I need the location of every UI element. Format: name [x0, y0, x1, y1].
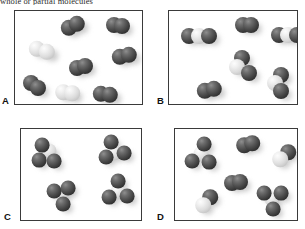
atom-dark [30, 80, 46, 96]
atom-dark [77, 58, 93, 74]
atom-dark [117, 146, 132, 161]
panel-d [174, 128, 298, 221]
atom-dark [120, 189, 135, 204]
atom-dark [202, 155, 217, 170]
panel-c [20, 128, 142, 221]
atom-dark [244, 135, 260, 151]
atom-dark [241, 65, 257, 81]
atom-light [272, 151, 288, 167]
atom-dark [197, 137, 212, 152]
panel-d-content [175, 129, 297, 220]
atom-dark [273, 83, 289, 99]
atom-dark [243, 17, 259, 33]
atom-dark [257, 186, 272, 201]
atom-dark [111, 174, 126, 189]
atom-light [195, 197, 211, 213]
atom-dark [56, 197, 71, 212]
atom-dark [232, 174, 248, 190]
panel-c-content [21, 129, 141, 220]
figure-caption-partial: whole or partial molecules [0, 0, 305, 5]
figure-root: whole or partial molecules ABCD [0, 0, 305, 229]
panel-b-content [169, 11, 297, 104]
atom-dark [114, 18, 130, 34]
atom-dark [201, 28, 217, 44]
atom-dark [266, 202, 281, 217]
atom-light [64, 85, 80, 101]
atom-dark [61, 181, 76, 196]
atom-dark [185, 154, 200, 169]
panel-label-d: D [157, 212, 164, 222]
atom-dark [32, 153, 47, 168]
panel-b [168, 10, 298, 105]
atom-dark [47, 154, 62, 169]
panel-a-content [15, 11, 142, 104]
atom-dark [104, 135, 119, 150]
atom-dark [102, 190, 117, 205]
atom-dark [35, 138, 50, 153]
panel-label-b: B [157, 96, 164, 106]
panel-label-c: C [4, 212, 11, 222]
atom-dark [99, 150, 114, 165]
atom-dark [274, 186, 289, 201]
panel-label-a: A [2, 96, 9, 106]
panel-a [14, 10, 143, 105]
